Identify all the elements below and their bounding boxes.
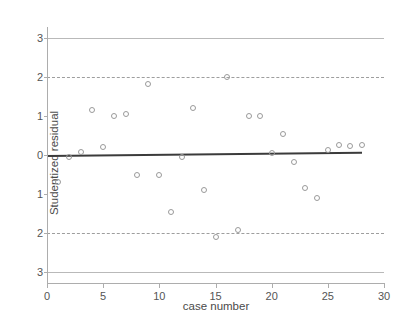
data-point — [179, 154, 185, 160]
data-point — [280, 131, 286, 137]
x-tick — [272, 284, 273, 288]
data-point — [201, 187, 207, 193]
data-point — [257, 113, 263, 119]
y-tick-label: 0 — [37, 149, 43, 161]
regression-fit-line — [47, 152, 362, 157]
data-point — [78, 149, 84, 155]
x-tick — [216, 284, 217, 288]
data-point — [168, 209, 174, 215]
data-point — [55, 179, 61, 185]
x-tick — [47, 284, 48, 288]
y-tick-label: 3 — [37, 32, 43, 44]
y-axis — [47, 27, 48, 283]
data-point — [246, 113, 252, 119]
y-tick-label: 2 — [37, 227, 43, 239]
reference-line--3 — [47, 272, 384, 273]
data-point — [325, 147, 331, 153]
data-point — [145, 81, 151, 87]
y-tick — [44, 272, 48, 273]
y-tick-label: 1 — [37, 188, 43, 200]
x-tick — [159, 284, 160, 288]
x-tick — [328, 284, 329, 288]
data-point — [314, 195, 320, 201]
data-point — [134, 172, 140, 178]
data-point — [190, 105, 196, 111]
y-tick — [44, 233, 48, 234]
data-point — [224, 74, 230, 80]
x-axis-title: case number — [47, 300, 385, 312]
plot-area — [47, 30, 384, 280]
data-point — [269, 150, 275, 156]
data-point — [89, 107, 95, 113]
data-point — [347, 143, 353, 149]
data-point — [123, 111, 129, 117]
x-tick — [103, 284, 104, 288]
data-point — [100, 144, 106, 150]
data-point — [66, 154, 72, 160]
y-tick-label: 2 — [37, 71, 43, 83]
y-tick-label: 1 — [37, 110, 43, 122]
data-point — [213, 234, 219, 240]
data-point — [302, 185, 308, 191]
reference-line-+2 — [47, 77, 384, 78]
data-point — [111, 113, 117, 119]
x-axis: 051015202530 — [47, 283, 385, 284]
data-point — [359, 142, 365, 148]
y-tick-label: 3 — [37, 266, 43, 278]
x-tick — [384, 284, 385, 288]
data-point — [336, 142, 342, 148]
data-point — [156, 172, 162, 178]
y-tick — [44, 155, 48, 156]
data-point — [235, 227, 241, 233]
y-tick — [44, 77, 48, 78]
y-tick — [44, 194, 48, 195]
y-tick — [44, 116, 48, 117]
y-axis-tick-labels: 3210123 — [18, 30, 43, 280]
reference-line-+3 — [47, 38, 384, 39]
scatter-chart-figure: Studentized residual 3210123 05101520253… — [0, 0, 411, 325]
data-point — [291, 159, 297, 165]
y-tick — [44, 38, 48, 39]
